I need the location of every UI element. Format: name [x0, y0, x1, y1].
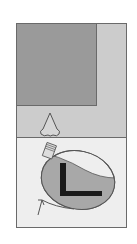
diagram-figure	[0, 0, 137, 244]
dark-square	[17, 24, 97, 106]
